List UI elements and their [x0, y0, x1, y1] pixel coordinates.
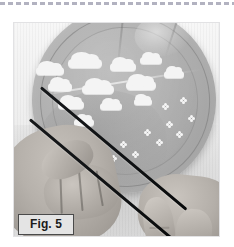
flower-decoration	[176, 131, 183, 138]
page-canvas: Fig. 5	[0, 0, 234, 247]
cloud-decoration	[36, 67, 64, 75]
flower-decoration	[166, 121, 173, 128]
finger-crease	[59, 174, 62, 214]
flower-decoration	[120, 141, 127, 148]
flower-decoration	[188, 115, 195, 122]
flower-decoration	[156, 139, 163, 146]
flower-decoration	[132, 151, 139, 158]
dashed-separator-rule	[0, 2, 234, 5]
cloud-decoration	[68, 59, 102, 68]
figure-number-label: Fig. 5	[18, 214, 74, 235]
flower-decoration	[144, 129, 151, 136]
figure-photograph: Fig. 5	[14, 23, 219, 236]
cloud-decoration	[110, 63, 136, 71]
cloud-decoration	[48, 83, 72, 91]
flower-decoration	[180, 97, 187, 104]
cloud-decoration	[134, 99, 152, 105]
cloud-decoration	[140, 57, 162, 64]
cloud-decoration	[164, 71, 184, 78]
cloud-decoration	[82, 85, 114, 94]
finger-crease	[78, 169, 83, 211]
cloud-decoration	[100, 103, 122, 110]
figure-photo-frame: Fig. 5	[13, 22, 220, 237]
cloud-decoration	[126, 81, 156, 90]
flower-decoration	[162, 103, 169, 110]
